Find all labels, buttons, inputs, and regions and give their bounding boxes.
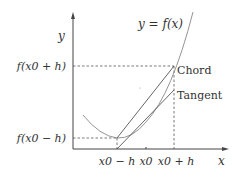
chord-line [117, 66, 174, 138]
tangent-label: Tangent [177, 89, 223, 102]
y-tick-f-plus: f(x0 + h) [16, 60, 66, 73]
x-tick-x-minus: x0 − h [99, 155, 136, 168]
y-tick-f-minus: f(x0 − h) [16, 132, 66, 145]
guide-lines [73, 66, 174, 149]
axes [71, 12, 229, 151]
x-tick-x0: x0 [139, 155, 152, 168]
chord-label: Chord [177, 64, 211, 77]
chord-tangent-diagram: y x y = f(x) f(x0 + h) f(x0 − h) x0 − h … [0, 0, 238, 178]
x-tick-x-plus: x0 + h [158, 155, 195, 168]
y-axis-label: y [57, 29, 65, 43]
curve-label: y = f(x) [137, 17, 183, 31]
y-axis-arrow-icon [71, 12, 75, 19]
x-axis-label: x [218, 154, 225, 168]
x-axis-arrow-icon [222, 147, 229, 151]
tangent-line [117, 90, 174, 149]
marker-dot [139, 87, 140, 88]
